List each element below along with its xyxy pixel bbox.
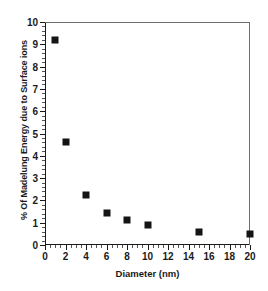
y-axis-major-tick — [40, 134, 45, 135]
plot-frame-right — [249, 22, 250, 245]
x-axis-minor-tick — [71, 245, 72, 248]
y-axis-minor-tick — [42, 205, 45, 206]
x-axis-major-tick — [148, 245, 149, 250]
x-axis-major-tick — [107, 245, 108, 250]
x-axis-minor-tick — [194, 245, 195, 248]
y-axis-minor-tick — [42, 116, 45, 117]
y-axis-minor-tick — [42, 84, 45, 85]
x-axis-tick-label: 4 — [83, 251, 89, 262]
y-axis-minor-tick — [42, 120, 45, 121]
x-axis-tick-label: 16 — [203, 251, 214, 262]
y-axis-minor-tick — [42, 236, 45, 237]
y-axis-tick-label: 8 — [32, 61, 38, 72]
y-axis-tick-label: 2 — [32, 195, 38, 206]
y-axis-minor-tick — [42, 49, 45, 50]
data-point-marker — [62, 139, 69, 146]
x-axis-minor-tick — [60, 245, 61, 248]
y-axis-tick-label: 10 — [27, 17, 38, 28]
x-axis-minor-tick — [137, 245, 138, 248]
x-axis-minor-tick — [219, 245, 220, 248]
x-axis-tick-label: 6 — [104, 251, 110, 262]
x-axis-minor-tick — [132, 245, 133, 248]
x-axis-minor-tick — [214, 245, 215, 248]
y-axis-minor-tick — [42, 31, 45, 32]
x-axis-major-tick — [250, 245, 251, 250]
y-axis-minor-tick — [42, 71, 45, 72]
y-axis-minor-tick — [42, 26, 45, 27]
x-axis-major-tick — [127, 245, 128, 250]
x-axis-minor-tick — [153, 245, 154, 248]
x-axis-tick-label: 10 — [142, 251, 153, 262]
data-point-marker — [144, 221, 151, 228]
y-axis-major-tick — [40, 200, 45, 201]
x-axis-major-tick — [189, 245, 190, 250]
y-axis-tick-label: 7 — [32, 83, 38, 94]
scatter-chart-figure: % Of Madelung Energy due to Surface ions… — [0, 0, 268, 291]
y-axis-minor-tick — [42, 93, 45, 94]
data-point-marker — [103, 209, 110, 216]
x-axis-minor-tick — [245, 245, 246, 248]
y-axis-minor-tick — [42, 129, 45, 130]
y-axis-minor-tick — [42, 138, 45, 139]
x-axis-minor-tick — [122, 245, 123, 248]
y-axis-tick-label: 4 — [32, 150, 38, 161]
y-axis-minor-tick — [42, 209, 45, 210]
data-point-marker — [124, 217, 131, 224]
x-axis-minor-tick — [76, 245, 77, 248]
y-axis-major-tick — [40, 111, 45, 112]
plot-area: 012345678910 02468101214161820 — [45, 22, 250, 245]
y-axis-minor-tick — [42, 160, 45, 161]
y-axis-tick-label: 6 — [32, 106, 38, 117]
x-axis-minor-tick — [117, 245, 118, 248]
x-axis-minor-tick — [96, 245, 97, 248]
y-axis-minor-tick — [42, 191, 45, 192]
y-axis-tick-label: 9 — [32, 39, 38, 50]
x-axis-minor-tick — [235, 245, 236, 248]
x-axis-major-tick — [209, 245, 210, 250]
x-axis-title: Diameter (nm) — [45, 268, 250, 279]
y-axis-minor-tick — [42, 53, 45, 54]
data-point-marker — [83, 191, 90, 198]
x-axis-major-tick — [230, 245, 231, 250]
y-axis-minor-tick — [42, 98, 45, 99]
y-axis-minor-tick — [42, 35, 45, 36]
x-axis-minor-tick — [81, 245, 82, 248]
x-axis-minor-tick — [91, 245, 92, 248]
y-axis-minor-tick — [42, 62, 45, 63]
x-axis-minor-tick — [163, 245, 164, 248]
data-point-marker — [195, 228, 202, 235]
x-axis-tick-label: 14 — [183, 251, 194, 262]
plot-frame-top — [45, 22, 250, 23]
x-axis-major-tick — [45, 245, 46, 250]
y-axis-tick-label: 0 — [32, 240, 38, 251]
x-axis-major-tick — [168, 245, 169, 250]
y-axis-minor-tick — [42, 196, 45, 197]
x-axis-minor-tick — [55, 245, 56, 248]
data-point-marker — [52, 36, 59, 43]
x-axis-tick-label: 18 — [224, 251, 235, 262]
y-axis-minor-tick — [42, 214, 45, 215]
y-axis-major-tick — [40, 44, 45, 45]
y-axis-minor-tick — [42, 232, 45, 233]
y-axis-minor-tick — [42, 183, 45, 184]
x-axis-tick-label: 0 — [42, 251, 48, 262]
y-axis-minor-tick — [42, 76, 45, 77]
x-axis-major-tick — [66, 245, 67, 250]
y-axis-minor-tick — [42, 58, 45, 59]
x-axis-minor-tick — [204, 245, 205, 248]
x-axis-minor-tick — [142, 245, 143, 248]
x-axis-minor-tick — [158, 245, 159, 248]
y-axis-major-tick — [40, 89, 45, 90]
y-axis-minor-tick — [42, 187, 45, 188]
y-axis-major-tick — [40, 223, 45, 224]
y-axis-minor-tick — [42, 102, 45, 103]
x-axis-tick-label: 2 — [63, 251, 69, 262]
y-axis-minor-tick — [42, 40, 45, 41]
x-axis-tick-label: 12 — [162, 251, 173, 262]
x-axis-minor-tick — [224, 245, 225, 248]
y-axis-major-tick — [40, 67, 45, 68]
y-axis-title: % Of Madelung Energy due to Surface ions — [16, 15, 32, 245]
x-axis-minor-tick — [112, 245, 113, 248]
y-axis-major-tick — [40, 178, 45, 179]
x-axis-minor-tick — [178, 245, 179, 248]
